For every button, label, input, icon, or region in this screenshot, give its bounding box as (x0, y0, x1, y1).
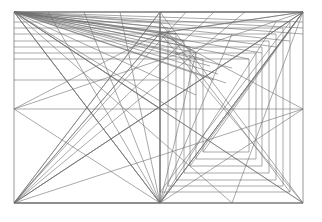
geometric-line-diagram: Recursive rectangle subdivision construc… (0, 0, 322, 222)
figure-canvas: Recursive rectangle subdivision construc… (0, 0, 322, 222)
